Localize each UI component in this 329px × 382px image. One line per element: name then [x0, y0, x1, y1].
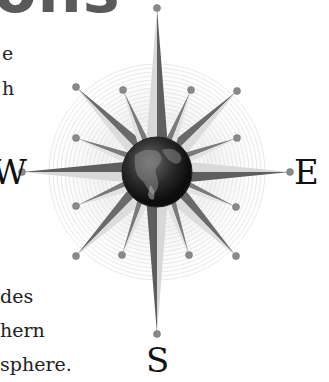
- compass-rose-icon: [0, 0, 329, 382]
- earth-globe-icon: [122, 137, 192, 207]
- document-page: ons e h des hern sphere.: [0, 0, 329, 382]
- compass-label-south: S: [146, 343, 169, 377]
- compass-label-east: E: [294, 155, 319, 189]
- compass-label-north: N: [145, 0, 175, 4]
- compass-label-west: W: [0, 155, 27, 189]
